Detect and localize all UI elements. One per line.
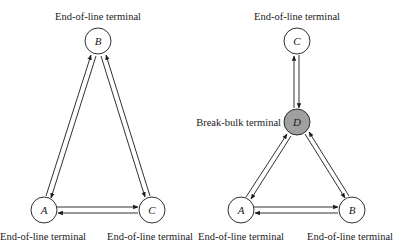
right-diagram: C D A B End-of-line terminal Break-bulk …	[196, 11, 393, 242]
edge-d-a	[246, 134, 291, 199]
caption-right-c: End-of-line terminal	[254, 11, 340, 22]
edge-d-b	[305, 132, 349, 198]
left-diagram: B A C End-of-line terminal End-of-line t…	[0, 11, 193, 242]
edge-c-d	[294, 55, 299, 108]
node-a-left: A	[31, 197, 57, 223]
node-label: A	[40, 204, 48, 216]
node-label: C	[148, 204, 156, 216]
caption-right-a: End-of-line terminal	[198, 231, 284, 242]
edge-b-c	[101, 55, 150, 197]
edge-a-b	[46, 55, 96, 198]
node-b-right: B	[339, 197, 365, 223]
caption-left-a: End-of-line terminal	[0, 231, 86, 242]
caption-right-b: End-of-line terminal	[307, 231, 393, 242]
node-d-hub: D	[284, 109, 310, 135]
node-b-left: B	[85, 28, 111, 54]
node-label: B	[349, 204, 356, 216]
caption-left-b: End-of-line terminal	[55, 11, 141, 22]
edge-a-b-right	[254, 207, 338, 213]
caption-right-d: Break-bulk terminal	[196, 117, 281, 128]
terminal-network-diagrams: B A C End-of-line terminal End-of-line t…	[0, 0, 400, 245]
node-label: B	[95, 35, 102, 47]
edge-a-c	[57, 207, 138, 213]
node-label: C	[293, 35, 301, 47]
node-label: A	[237, 204, 245, 216]
caption-left-c: End-of-line terminal	[107, 231, 193, 242]
node-c-right: C	[284, 28, 310, 54]
node-c-left: C	[139, 197, 165, 223]
node-label: D	[292, 116, 301, 128]
node-a-right: A	[228, 197, 254, 223]
